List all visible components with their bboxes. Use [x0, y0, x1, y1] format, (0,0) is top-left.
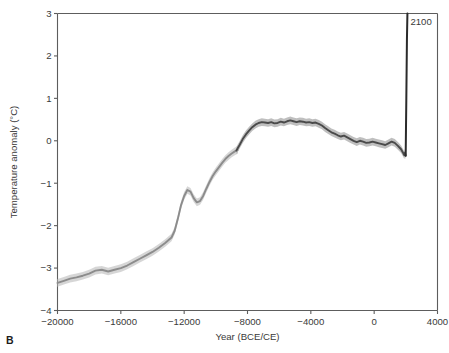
x-tick-label: −20000	[41, 316, 73, 327]
panel-label: B	[6, 334, 14, 346]
series-uncertainty-band	[58, 146, 239, 287]
series-line	[58, 150, 239, 283]
x-tick-label: 0	[371, 316, 376, 327]
y-tick-label: 1	[46, 93, 51, 104]
series-2	[406, 14, 408, 156]
x-tick-label: −16000	[105, 316, 137, 327]
series-0	[58, 146, 239, 287]
y-tick-label: 0	[46, 135, 51, 146]
y-tick-label: −3	[41, 262, 52, 273]
annotation-2100: 2100	[410, 16, 431, 27]
x-axis-title: Year (BCE/CE)	[215, 331, 279, 342]
y-tick-label: −1	[41, 178, 52, 189]
x-tick-label: −8000	[234, 316, 261, 327]
x-tick-label: −4000	[297, 316, 324, 327]
plot-area: −4−3−2−10123−20000−16000−12000−8000−4000…	[8, 8, 448, 342]
y-tick-label: 3	[46, 8, 51, 19]
y-axis-title: Temperature anomaly (°C)	[8, 106, 19, 219]
y-tick-label: 2	[46, 50, 51, 61]
x-tick-label: −12000	[168, 316, 200, 327]
figure-panel-b: −4−3−2−10123−20000−16000−12000−8000−4000…	[0, 0, 449, 353]
y-tick-label: −2	[41, 220, 52, 231]
y-tick-label: −4	[41, 305, 53, 316]
temperature-anomaly-chart: −4−3−2−10123−20000−16000−12000−8000−4000…	[0, 0, 449, 353]
series-1	[236, 117, 405, 160]
series-line	[406, 14, 408, 156]
x-tick-label: 4000	[427, 316, 448, 327]
